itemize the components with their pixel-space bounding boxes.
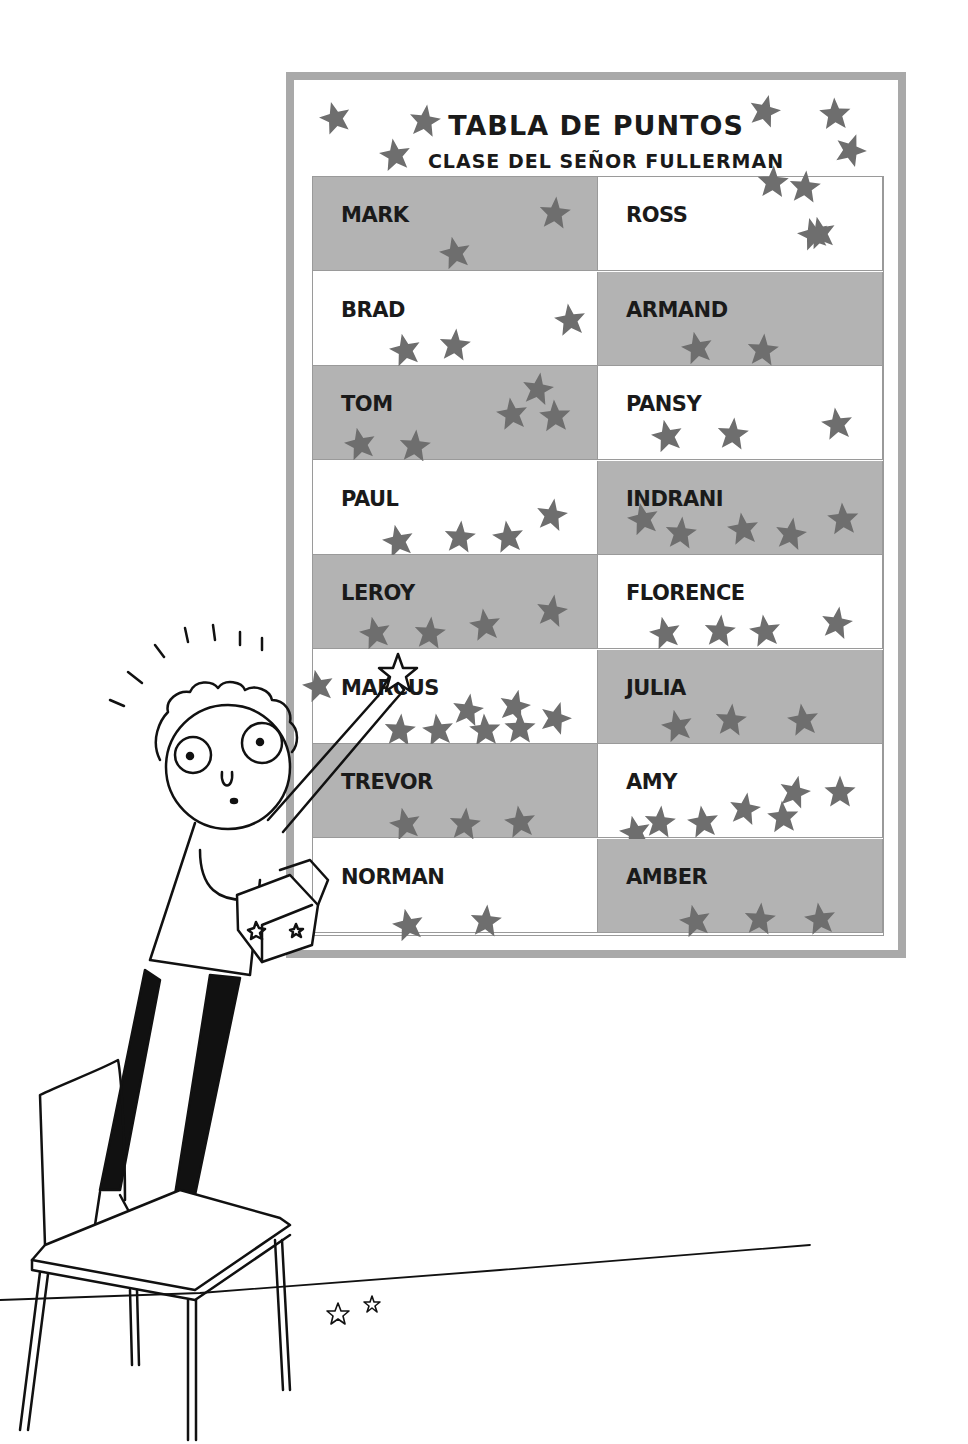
- star-icon: [442, 517, 479, 554]
- chart-title: TABLA DE PUNTOS: [294, 110, 898, 141]
- star-icon: [551, 299, 589, 337]
- star-icon: [775, 771, 816, 812]
- student-name: MARK: [341, 203, 409, 227]
- star-icon: [468, 901, 505, 938]
- student-name: AMBER: [626, 865, 707, 889]
- star-icon: [713, 700, 750, 737]
- star-icon: [724, 508, 762, 546]
- star-icon: [817, 95, 853, 131]
- student-name: BRAD: [341, 298, 405, 322]
- star-icon: [406, 101, 444, 139]
- student-cell-norman: NORMAN: [313, 839, 598, 933]
- student-name: TREVOR: [341, 770, 433, 794]
- star-icon: [818, 404, 856, 442]
- star-icon: [745, 330, 782, 367]
- star-icon: [663, 513, 700, 550]
- student-name: AMY: [626, 770, 677, 794]
- star-icon: [535, 695, 577, 737]
- student-name: ROSS: [626, 203, 687, 227]
- star-icon: [388, 903, 428, 943]
- student-name: LEROY: [341, 581, 415, 605]
- star-icon: [772, 513, 811, 552]
- star-icon: [715, 415, 752, 452]
- student-cell-trevor: TREVOR: [313, 744, 598, 838]
- student-cell-tom: TOM: [313, 366, 598, 460]
- star-icon: [533, 494, 572, 533]
- star-icon: [825, 499, 861, 535]
- student-cell-brad: BRAD: [313, 272, 598, 366]
- star-icon: [623, 497, 663, 537]
- student-cell-mark: MARK: [313, 177, 598, 271]
- student-cell-marcus: MARCUS: [313, 650, 598, 744]
- star-icon: [801, 898, 839, 936]
- star-icon: [675, 899, 715, 939]
- star-icon: [642, 803, 679, 840]
- points-chart: TABLA DE PUNTOS CLASE DEL SEÑOR FULLERMA…: [286, 72, 906, 958]
- student-cell-indrani: INDRANI: [598, 461, 883, 555]
- star-icon: [385, 328, 425, 368]
- student-cell-paul: PAUL: [313, 461, 598, 555]
- star-icon: [784, 699, 822, 737]
- star-icon: [298, 664, 338, 704]
- star-icon: [742, 899, 779, 936]
- student-cell-armand: ARMAND: [598, 272, 883, 366]
- star-icon: [818, 603, 857, 642]
- student-cell-leroy: LEROY: [313, 555, 598, 649]
- star-icon: [435, 232, 475, 272]
- star-icon: [677, 326, 717, 366]
- star-icon: [823, 774, 857, 808]
- student-cell-amber: AMBER: [598, 839, 883, 933]
- star-icon: [412, 614, 449, 651]
- star-icon: [501, 802, 539, 840]
- star-icon: [376, 135, 415, 174]
- student-cell-pansy: PANSY: [598, 366, 883, 460]
- star-icon: [657, 704, 697, 744]
- star-icon: [533, 591, 572, 630]
- star-icon: [385, 803, 425, 843]
- star-icon: [340, 423, 380, 463]
- star-icon: [755, 163, 791, 199]
- star-icon: [378, 519, 418, 559]
- student-name: JULIA: [626, 676, 686, 700]
- star-icon: [437, 325, 474, 362]
- star-icon: [684, 802, 722, 840]
- student-name: MARCUS: [341, 676, 439, 700]
- star-icon: [537, 397, 573, 433]
- star-icon: [503, 710, 537, 744]
- star-icon: [447, 805, 484, 842]
- star-icon: [537, 194, 574, 231]
- student-cell-ross: ROSS: [598, 177, 883, 271]
- star-icon: [397, 427, 434, 464]
- star-icon: [382, 710, 419, 747]
- student-grid: MARKROSSBRADARMANDTOMPANSYPAULINDRANILER…: [312, 176, 884, 936]
- star-icon: [645, 612, 685, 652]
- star-icon: [647, 415, 687, 455]
- student-name: NORMAN: [341, 865, 444, 889]
- star-icon: [746, 611, 784, 649]
- star-icon: [466, 605, 504, 643]
- star-icon: [787, 168, 824, 205]
- star-icon: [355, 612, 395, 652]
- student-name: TOM: [341, 392, 393, 416]
- student-cell-amy: AMY: [598, 744, 883, 838]
- student-name: PANSY: [626, 392, 701, 416]
- star-icon: [702, 612, 739, 649]
- student-name: ARMAND: [626, 298, 728, 322]
- star-icon: [726, 789, 765, 828]
- star-icon: [489, 516, 527, 554]
- student-name: FLORENCE: [626, 581, 745, 605]
- student-cell-julia: JULIA: [598, 650, 883, 744]
- student-cell-florence: FLORENCE: [598, 555, 883, 649]
- student-name: PAUL: [341, 487, 399, 511]
